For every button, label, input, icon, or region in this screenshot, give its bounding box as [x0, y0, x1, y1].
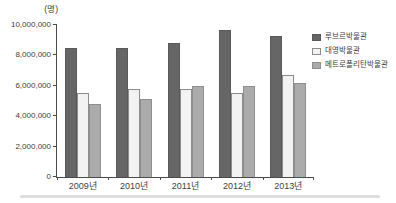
bar-chart: (명) 02,000,0004,000,0006,000,0008,000,00… [0, 0, 396, 203]
x-axis-tick-label: 2011년 [160, 181, 211, 191]
y-axis-tick [53, 54, 57, 55]
x-axis-tick [211, 177, 212, 180]
x-axis-tick-label: 2009년 [57, 181, 108, 191]
legend-swatch [312, 62, 321, 69]
bar-groups [57, 25, 314, 177]
y-axis-tick-label: 4,000,000 [15, 111, 51, 121]
bar-group [57, 25, 108, 177]
bar-group [108, 25, 159, 177]
y-axis-tick-label: 8,000,000 [15, 50, 51, 60]
y-axis-tick-label: 2,000,000 [15, 142, 51, 152]
bar [65, 48, 77, 177]
bar [243, 86, 255, 177]
bar [77, 93, 89, 177]
x-axis-tick [57, 177, 58, 180]
legend-label: 루브르박물관 [325, 33, 367, 41]
x-axis-tick-label: 2012년 [211, 181, 262, 191]
legend-swatch [312, 34, 321, 41]
plot-area [56, 25, 314, 178]
bar-group [263, 25, 314, 177]
bar [294, 83, 306, 177]
y-axis-tick-label: 6,000,000 [15, 81, 51, 91]
bar [282, 75, 294, 177]
bar [219, 30, 231, 177]
bar [180, 89, 192, 177]
bar-group [160, 25, 211, 177]
legend: 루브르박물관대영박물관메트로폴리탄박물관 [312, 33, 388, 75]
y-axis-tick [53, 24, 57, 25]
y-axis-tick-label: 0 [47, 172, 51, 182]
bar-group [211, 25, 262, 177]
bar [231, 93, 243, 177]
x-axis-tick [263, 177, 264, 180]
y-axis-tick [53, 146, 57, 147]
legend-label: 메트로폴리탄박물관 [325, 61, 388, 69]
y-axis-tick [53, 115, 57, 116]
legend-swatch [312, 48, 321, 55]
y-axis-labels: 02,000,0004,000,0006,000,0008,000,00010,… [0, 25, 51, 177]
bar [192, 86, 204, 177]
y-axis-tick-label: 10,000,000 [11, 20, 51, 30]
legend-item: 대영박물관 [312, 47, 388, 55]
bar [128, 89, 140, 177]
y-axis-unit-label: (명) [0, 3, 58, 15]
bar [270, 36, 282, 177]
x-axis-tick [160, 177, 161, 180]
x-axis-tick-label: 2010년 [108, 181, 159, 191]
x-axis-tick-label: 2013년 [263, 181, 314, 191]
bar [168, 43, 180, 177]
legend-item: 루브르박물관 [312, 33, 388, 41]
legend-item: 메트로폴리탄박물관 [312, 61, 388, 69]
bar [89, 104, 101, 177]
y-axis-tick [53, 85, 57, 86]
x-axis-tick [108, 177, 109, 180]
x-axis-labels: 2009년2010년2011년2012년2013년 [57, 181, 314, 191]
x-axis-tick [313, 177, 314, 180]
bar [140, 99, 152, 177]
bar [116, 48, 128, 177]
bottom-separator-line [20, 195, 380, 198]
legend-label: 대영박물관 [325, 47, 360, 55]
